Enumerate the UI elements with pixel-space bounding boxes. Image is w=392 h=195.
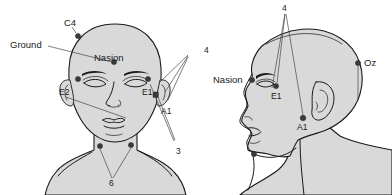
electrode-neck-left[interactable] [97, 143, 102, 148]
label-e1-side: E1 [271, 91, 282, 101]
electrode-nasion-side[interactable] [249, 77, 254, 82]
label-nasion: Nasion [94, 52, 124, 63]
label-e1: E1 [142, 87, 153, 97]
eeg-placement-diagram: C4 Ground Nasion E2 E1 A1 4 3 6 [0, 0, 392, 195]
label-three: 3 [176, 146, 181, 156]
label-a1-side: A1 [297, 122, 308, 132]
label-a1: A1 [161, 106, 172, 116]
label-four-front: 4 [204, 45, 209, 55]
side-neck-front-line [248, 152, 254, 190]
leader-c4 [72, 27, 76, 33]
lateral-view: 4 Nasion E1 A1 Oz [213, 3, 392, 195]
label-nasion-side: Nasion [213, 74, 243, 85]
frontal-view: C4 Ground Nasion E2 E1 A1 4 3 6 [10, 17, 209, 195]
leader-4-ear-right-3 [168, 57, 188, 100]
electrode-a1-side[interactable] [300, 115, 306, 121]
figure-root: C4 Ground Nasion E2 E1 A1 4 3 6 [0, 0, 392, 195]
leader-a1-to-3 [158, 97, 175, 140]
electrode-c4[interactable] [75, 33, 80, 38]
electrode-e2[interactable] [75, 76, 80, 81]
label-c4: C4 [64, 17, 76, 28]
electrode-neck-right[interactable] [128, 142, 133, 147]
electrode-neck-side[interactable] [251, 151, 256, 156]
label-oz: Oz [364, 57, 376, 68]
label-e2: E2 [59, 87, 70, 97]
electrode-e1-side[interactable] [273, 83, 278, 88]
label-ground: Ground [10, 39, 42, 50]
electrode-e1[interactable] [145, 76, 150, 81]
label-six: 6 [109, 178, 114, 188]
label-four-side: 4 [282, 3, 287, 13]
